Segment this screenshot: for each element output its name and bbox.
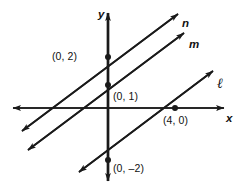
- point-0-2: [105, 54, 111, 60]
- line-n-label: n: [182, 18, 189, 30]
- line-m-label: m: [189, 39, 199, 51]
- point-label-0-2: (0, 2): [52, 51, 77, 62]
- point-0-1: [105, 82, 111, 88]
- line-l-label: ℓ: [217, 77, 223, 91]
- line-n: [22, 14, 178, 131]
- point-0-neg2: [105, 157, 111, 163]
- point-label-0-1: (0, 1): [113, 91, 138, 102]
- point-label-0-neg2: (0, –2): [113, 163, 144, 174]
- coordinate-plane-figure: y x n m ℓ (0, 2) (0, 1) (4, 0) (0, –2): [0, 0, 236, 192]
- x-axis-label: x: [226, 113, 233, 125]
- point-4-0: [172, 105, 178, 111]
- line-n-upper-arrow: [22, 14, 178, 131]
- line-l-upper-arrow: [79, 71, 213, 172]
- point-label-4-0: (4, 0): [163, 115, 188, 126]
- y-axis-label: y: [98, 9, 105, 21]
- line-l: [79, 71, 213, 172]
